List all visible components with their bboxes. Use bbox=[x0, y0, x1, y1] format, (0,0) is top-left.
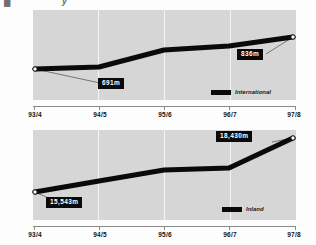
legend-label-international: International bbox=[235, 89, 271, 95]
tick-95-6 bbox=[164, 106, 165, 110]
chart-international: 691m 836m International 93/4 94/5 95/6 9… bbox=[0, 6, 316, 122]
legend-swatch-icon bbox=[222, 207, 242, 212]
chart-inland: 15,543m 18,430m Inland 93/4 94/5 95/6 96… bbox=[0, 126, 316, 242]
tick-93-4 bbox=[34, 106, 35, 110]
x-label-94-5: 94/5 bbox=[93, 111, 106, 118]
tick-93-4 bbox=[34, 226, 35, 230]
legend-inland: Inland bbox=[222, 206, 264, 212]
series-line-inland bbox=[0, 126, 316, 226]
legend-swatch-icon bbox=[211, 90, 231, 95]
x-label-95-6: 95/6 bbox=[158, 111, 171, 118]
tick-95-6 bbox=[164, 226, 165, 230]
legend-international: International bbox=[211, 89, 271, 95]
tick-94-5 bbox=[99, 106, 100, 110]
x-label-97-8: 97/8 bbox=[287, 111, 300, 118]
legend-label-inland: Inland bbox=[246, 206, 264, 212]
callout-inland-start: 15,543m bbox=[46, 197, 82, 208]
tick-97-8 bbox=[295, 106, 296, 110]
x-label-96-7: 96/7 bbox=[223, 111, 236, 118]
tick-96-7 bbox=[229, 106, 230, 110]
x-label-97-8: 97/8 bbox=[287, 231, 300, 238]
x-label-93-4: 93/4 bbox=[28, 231, 41, 238]
page-background: █ y 691m 836m International bbox=[0, 0, 316, 245]
x-label-94-5: 94/5 bbox=[93, 231, 106, 238]
x-label-95-6: 95/6 bbox=[158, 231, 171, 238]
callout-inland-end: 18,430m bbox=[216, 131, 252, 142]
tick-96-7 bbox=[229, 226, 230, 230]
x-label-93-4: 93/4 bbox=[28, 111, 41, 118]
tick-97-8 bbox=[295, 226, 296, 230]
x-label-96-7: 96/7 bbox=[223, 231, 236, 238]
callout-international-end: 836m bbox=[237, 49, 263, 60]
tick-94-5 bbox=[99, 226, 100, 230]
callout-international-start: 691m bbox=[98, 78, 124, 89]
